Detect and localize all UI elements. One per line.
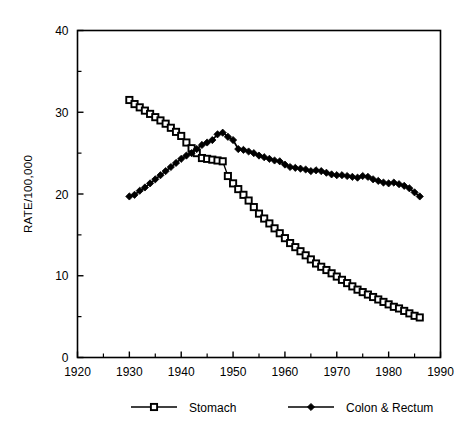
legend-item-stomach[interactable]: Stomach <box>131 401 236 415</box>
data-series-layer <box>126 97 424 321</box>
y-tick-label: 10 <box>55 269 69 283</box>
legend-item-colon-rectum[interactable]: Colon & Rectum <box>288 401 433 415</box>
x-tick-label: 1920 <box>64 365 91 379</box>
y-axis-major-ticks <box>78 31 84 358</box>
x-axis-tick-labels: 19201930194019501960197019801990 <box>64 365 454 379</box>
x-tick-label: 1990 <box>427 365 454 379</box>
chart-figure: 010203040 192019301940195019601970198019… <box>0 0 474 432</box>
chart-legend: StomachColon & Rectum <box>131 401 433 415</box>
data-point-marker <box>251 204 257 210</box>
x-tick-label: 1970 <box>323 365 350 379</box>
series-markers <box>126 129 424 200</box>
x-tick-label: 1980 <box>375 365 402 379</box>
data-point-marker <box>417 314 423 320</box>
x-tick-label: 1940 <box>168 365 195 379</box>
series-markers <box>126 97 423 321</box>
x-tick-label: 1930 <box>116 365 143 379</box>
data-point-marker <box>178 133 184 139</box>
series-stomach <box>126 97 423 321</box>
series-colon-rectum <box>126 129 424 200</box>
y-axis-tick-labels: 010203040 <box>55 24 69 365</box>
data-point-marker <box>225 173 231 179</box>
legend-label: Colon & Rectum <box>346 401 433 415</box>
chart-canvas: 010203040 192019301940195019601970198019… <box>0 0 474 432</box>
y-tick-label: 20 <box>55 188 69 202</box>
legend-marker-filled-diamond-icon <box>307 403 314 410</box>
legend-marker-open-square-icon <box>151 404 157 410</box>
y-axis-title: RATE/100,000 <box>22 155 34 233</box>
data-point-marker <box>220 158 226 164</box>
x-tick-label: 1960 <box>272 365 299 379</box>
x-tick-label: 1950 <box>220 365 247 379</box>
data-point-marker <box>246 197 252 203</box>
y-tick-label: 0 <box>62 351 69 365</box>
y-tick-label: 30 <box>55 106 69 120</box>
y-tick-label: 40 <box>55 24 69 38</box>
legend-label: Stomach <box>189 401 236 415</box>
y-axis-title-text: RATE/100,000 <box>22 155 34 233</box>
